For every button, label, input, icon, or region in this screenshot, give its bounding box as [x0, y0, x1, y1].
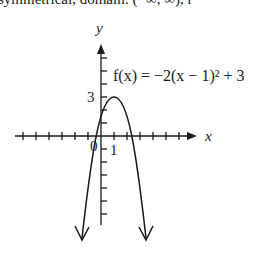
y-axis-label: y	[94, 20, 103, 36]
parabola-curve	[82, 97, 146, 238]
x-axis-label: x	[204, 128, 212, 144]
y-axis-arrow-icon	[97, 44, 105, 54]
parabola-graph: y x f(x) = −2(x − 1)² + 3 3 0 1	[0, 0, 278, 253]
function-label: f(x) = −2(x − 1)² + 3	[113, 67, 245, 85]
tick-label-1: 1	[110, 142, 118, 158]
y-axis	[101, 52, 107, 225]
tick-label-3: 3	[87, 89, 95, 105]
tick-label-origin: 0	[90, 138, 98, 154]
x-axis-arrow-icon	[187, 132, 197, 140]
x-axis	[15, 132, 190, 140]
